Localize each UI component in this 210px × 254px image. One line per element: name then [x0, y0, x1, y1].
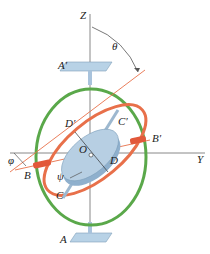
label-d-prime: D′	[64, 117, 76, 129]
bracket-a	[70, 233, 112, 242]
top-shaft	[88, 71, 92, 85]
label-c-prime: C′	[118, 115, 128, 127]
label-b-prime: B′	[152, 132, 162, 144]
center-o	[89, 153, 93, 157]
label-a: A	[59, 233, 67, 245]
label-phi: φ	[8, 154, 14, 166]
label-y: Y	[197, 153, 205, 165]
label-c: C	[56, 189, 64, 201]
label-z: Z	[80, 9, 87, 21]
label-o: O	[79, 143, 87, 155]
label-theta: θ	[112, 40, 118, 52]
bracket-a-prime	[60, 62, 112, 71]
label-b: B	[24, 169, 31, 181]
label-d: D	[109, 154, 118, 166]
gyroscope-diagram: Z Y θ φ ψ A′ A B B′ C C′ D D′ O	[0, 0, 210, 254]
theta-arrow-icon	[134, 68, 140, 72]
label-psi: ψ	[57, 170, 64, 182]
label-a-prime: A′	[57, 59, 68, 71]
